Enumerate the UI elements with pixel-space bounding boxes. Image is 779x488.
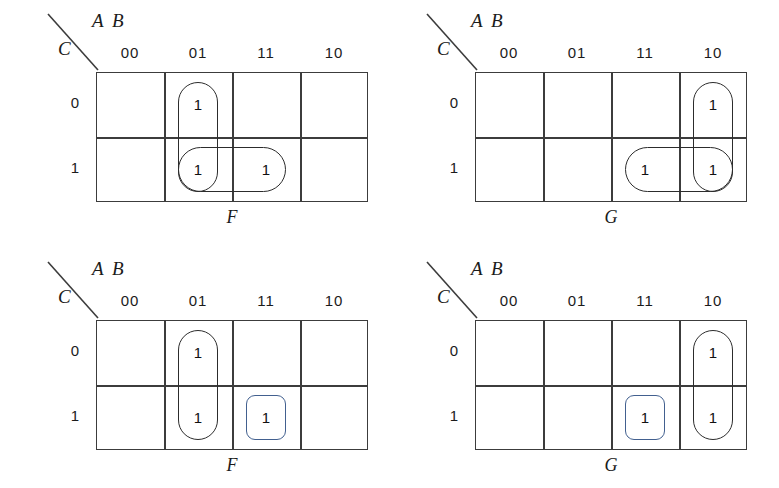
kmap-axis-corner: A BC [419, 6, 539, 72]
row-header-0: 0 [64, 94, 86, 111]
column-header-10: 10 [679, 292, 747, 309]
column-header-11: 11 [611, 292, 679, 309]
axis-label-c: C [58, 38, 71, 60]
kmap-cell-value: 1 [232, 385, 300, 450]
column-header-10: 10 [679, 44, 747, 61]
row-header-1: 1 [443, 407, 465, 424]
column-header-10: 10 [300, 44, 368, 61]
column-header-00: 00 [96, 292, 164, 309]
row-header-1: 1 [64, 407, 86, 424]
kmap-axis-corner: A BC [419, 254, 539, 320]
column-header-11: 11 [611, 44, 679, 61]
kmap-cell-value: 1 [611, 137, 679, 202]
column-header-11: 11 [232, 44, 300, 61]
axis-label-c: C [437, 286, 450, 308]
kmap-function-label: F [96, 455, 368, 476]
kmap-cell-value: 1 [679, 137, 747, 202]
column-header-00: 00 [475, 292, 543, 309]
kmap-function-label: F [96, 207, 368, 228]
column-header-00: 00 [96, 44, 164, 61]
column-header-01: 01 [543, 292, 611, 309]
row-header-0: 0 [443, 94, 465, 111]
axis-label-ab: A B [471, 258, 505, 280]
row-header-0: 0 [64, 342, 86, 359]
column-header-01: 01 [543, 44, 611, 61]
axis-label-c: C [58, 286, 71, 308]
axis-label-ab: A B [92, 258, 126, 280]
row-header-1: 1 [443, 159, 465, 176]
kmap-axis-corner: A BC [40, 254, 160, 320]
column-header-01: 01 [164, 44, 232, 61]
axis-label-ab: A B [471, 10, 505, 32]
kmap-cell-value: 1 [164, 385, 232, 450]
kmap-axis-corner: A BC [40, 6, 160, 72]
kmap-function-label: G [475, 207, 747, 228]
column-header-01: 01 [164, 292, 232, 309]
kmap-cell-value: 1 [679, 72, 747, 137]
kmap-cell-value: 1 [611, 385, 679, 450]
kmap-cell-value: 1 [164, 72, 232, 137]
kmap-top-right: A BC0001111001111G [379, 0, 769, 244]
kmap-cell-value: 1 [164, 137, 232, 202]
kmap-bottom-right: A BC0001111001111G [379, 248, 769, 488]
kmap-cell-value: 1 [679, 385, 747, 450]
kmap-cell-value: 1 [164, 320, 232, 385]
axis-label-ab: A B [92, 10, 126, 32]
kmap-function-label: G [475, 455, 747, 476]
column-header-00: 00 [475, 44, 543, 61]
kmap-bottom-left: A BC0001111001111F [0, 248, 390, 488]
column-header-10: 10 [300, 292, 368, 309]
kmap-top-left: A BC0001111001111F [0, 0, 390, 244]
kmap-cell-value: 1 [679, 320, 747, 385]
kmap-cell-value: 1 [232, 137, 300, 202]
axis-label-c: C [437, 38, 450, 60]
column-header-11: 11 [232, 292, 300, 309]
row-header-0: 0 [443, 342, 465, 359]
row-header-1: 1 [64, 159, 86, 176]
